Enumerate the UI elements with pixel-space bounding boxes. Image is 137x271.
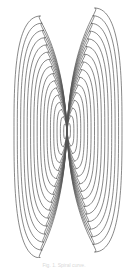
figure-caption: Fig. 1. Spiral curve. (14, 261, 114, 269)
spiral-figure (0, 0, 137, 258)
spiral-loop (31, 52, 67, 218)
spiral-curves (14, 8, 122, 258)
spiral-loop (67, 16, 119, 245)
